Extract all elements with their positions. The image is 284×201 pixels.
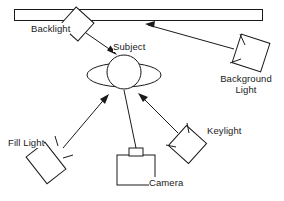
fill-light-ray [63,94,109,148]
fill-light-label: Fill Light [8,137,44,148]
background-light-label: Background Light [215,73,277,95]
keylight-ray [138,93,178,133]
background-light-ray [145,21,234,49]
background-light-label-line1: Background [220,73,272,84]
keylight-shape [166,123,207,164]
background-light-shape [230,34,270,72]
backdrop-shape [15,10,263,21]
background-light-label-line2: Light [235,84,256,95]
backlight-label: Backlight [31,23,70,34]
camera-ray [124,90,136,148]
keylight-label: Keylight [207,125,242,136]
subject-shape [87,55,161,89]
subject-label: Subject [113,41,145,52]
camera-label: Camera [149,177,183,188]
lighting-diagram: Backlight Subject Background Light Keyli… [0,0,284,201]
